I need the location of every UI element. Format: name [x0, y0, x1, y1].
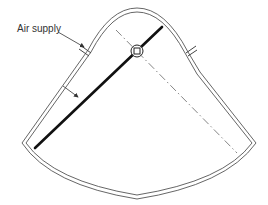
blade-indicator-arrow [63, 86, 78, 97]
diagram-canvas: Air supply [0, 0, 268, 205]
pivot [131, 45, 143, 57]
sector-housing [22, 8, 256, 199]
air-supply-label: Air supply [17, 24, 61, 34]
air-supply-leader-arrow [58, 32, 84, 47]
damper-blade [35, 27, 162, 148]
pivot-shaft-square [134, 48, 140, 54]
housing-inner-wall [26, 12, 252, 195]
